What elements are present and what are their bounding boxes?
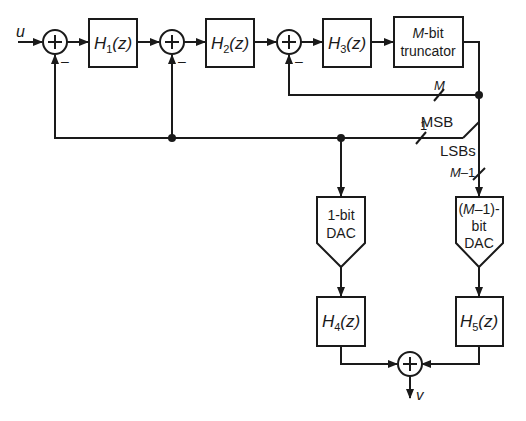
svg-text:1-bit: 1-bit (327, 207, 354, 223)
msb-split (463, 122, 479, 138)
bus-label-m: M (434, 78, 445, 93)
summer-3-minus: – (295, 53, 303, 69)
block-h3: H3(z) (323, 19, 371, 67)
h5-to-sum-out (422, 346, 479, 364)
block-h1: H1(z) (89, 19, 137, 67)
svg-text:M-bit: M-bit (412, 25, 443, 41)
svg-text:bit: bit (472, 218, 487, 234)
block-truncator: M-bit truncator (394, 17, 463, 67)
block-dac-1bit: 1-bit DAC (317, 197, 365, 267)
svg-text:H5(z): H5(z) (460, 312, 498, 333)
svg-text:truncator: truncator (400, 43, 456, 59)
lsbs-label: LSBs (440, 142, 476, 159)
summer-output (398, 352, 422, 376)
summer-1-minus: – (61, 53, 69, 69)
svg-text:(M–1)-: (M–1)- (458, 201, 500, 217)
block-h2: H2(z) (206, 19, 254, 67)
block-h4: H4(z) (317, 297, 365, 346)
bus-label-1: 1 (420, 118, 427, 133)
svg-text:H1(z): H1(z) (94, 34, 132, 55)
svg-text:H2(z): H2(z) (211, 34, 249, 55)
diagram-canvas: u – H1(z) – H2(z) – (0, 0, 526, 421)
svg-text:DAC: DAC (464, 235, 494, 251)
block-dac-m-minus-1-bit: (M–1)- bit DAC (456, 197, 503, 267)
h4-to-sum-out (341, 346, 397, 364)
block-h5: H5(z) (456, 297, 503, 346)
input-label: u (16, 23, 25, 40)
output-label: v (416, 386, 425, 403)
svg-text:H4(z): H4(z) (322, 312, 360, 333)
svg-text:H3(z): H3(z) (328, 34, 366, 55)
svg-text:DAC: DAC (326, 225, 356, 241)
node-msb-sum2 (168, 134, 176, 142)
summer-2-minus: – (178, 53, 186, 69)
truncator-output-wire (463, 42, 479, 95)
svg-text:M–1: M–1 (450, 165, 475, 180)
